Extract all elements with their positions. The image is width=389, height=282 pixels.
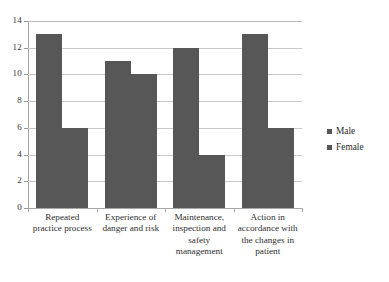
category-label-line: danger and risk [98, 223, 165, 234]
y-axis-tick-label: 6 [0, 123, 22, 132]
bar-group [28, 21, 97, 208]
bar-male[interactable] [105, 61, 131, 208]
legend-item-female[interactable]: Female [327, 139, 389, 155]
y-axis-tick-label: 8 [0, 96, 22, 105]
square-marker-icon [327, 145, 332, 150]
category-label-line: management [166, 246, 233, 257]
bar-chart: 14121086420 Repeatedpractice processExpe… [0, 0, 389, 282]
legend-item-label: Female [336, 142, 364, 152]
x-axis-category-label: Action inaccordance withthe changes inpa… [234, 212, 303, 276]
x-axis-category-label: Repeatedpractice process [28, 212, 97, 276]
category-label-line: Maintenance, [166, 212, 233, 223]
bar-series-layer [28, 21, 302, 208]
bar-female[interactable] [268, 128, 294, 208]
bar-group [234, 21, 303, 208]
category-label-line: the changes in [235, 235, 302, 246]
plot-area [28, 21, 302, 208]
y-axis-tick-label: 2 [0, 176, 22, 185]
category-label-line: Repeated [29, 212, 96, 223]
y-axis-tick-label: 14 [0, 16, 22, 25]
bar-male[interactable] [36, 34, 62, 208]
category-label-line: Experience of [98, 212, 165, 223]
bar-male[interactable] [173, 48, 199, 208]
bar-female[interactable] [199, 155, 225, 208]
bar-group [97, 21, 166, 208]
x-axis-category-label: Experience ofdanger and risk [97, 212, 166, 276]
legend-item-label: Male [336, 126, 355, 136]
category-label-line: practice process [29, 223, 96, 234]
category-label-line: Action in [235, 212, 302, 223]
y-axis-tick-label: 10 [0, 69, 22, 78]
category-label-line: inspection and [166, 223, 233, 234]
bar-female[interactable] [62, 128, 88, 208]
y-axis-tick-label: 12 [0, 43, 22, 52]
y-axis-tick-label: 4 [0, 150, 22, 159]
category-label-line: safety [166, 235, 233, 246]
bar-female[interactable] [131, 74, 157, 208]
chart-legend: MaleFemale [327, 123, 389, 155]
category-label-line: accordance with [235, 223, 302, 234]
bar-male[interactable] [242, 34, 268, 208]
square-marker-icon [327, 129, 332, 134]
bar-group [165, 21, 234, 208]
x-axis-category-labels: Repeatedpractice processExperience ofdan… [28, 212, 302, 276]
legend-item-male[interactable]: Male [327, 123, 389, 139]
y-axis-tick-label: 0 [0, 203, 22, 212]
category-label-line: patient [235, 246, 302, 257]
x-axis-category-label: Maintenance,inspection andsafetymanageme… [165, 212, 234, 276]
x-axis-tick-mark [302, 208, 303, 212]
